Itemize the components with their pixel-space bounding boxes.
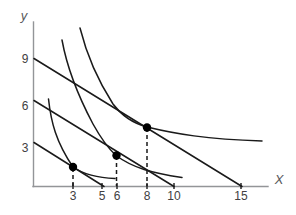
- indifference-curves-group: [49, 28, 263, 179]
- x-tick-label-3: 3: [70, 189, 77, 203]
- indifference-curve-chart: y X 9 6 3 3 5 6 8 10 15: [0, 0, 296, 215]
- y-axis-label: y: [20, 8, 29, 23]
- y-tick-label-6: 6: [22, 99, 29, 113]
- x-tick-labels-group: 3 5 6 8 10 15: [70, 189, 248, 203]
- chart-figure: y X 9 6 3 3 5 6 8 10 15: [0, 0, 296, 215]
- tangency-point-3: [143, 123, 151, 131]
- indifference-curve-3: [80, 28, 262, 141]
- y-tick-label-9: 9: [22, 52, 29, 66]
- x-tick-label-10: 10: [167, 189, 181, 203]
- x-tick-label-8: 8: [144, 189, 151, 203]
- budget-line-1: [34, 143, 104, 187]
- y-tick-labels-group: 9 6 3: [22, 52, 29, 155]
- x-tick-label-15: 15: [234, 189, 248, 203]
- budget-line-2: [34, 101, 174, 187]
- axes-group: [33, 22, 268, 187]
- x-axis-label: X: [274, 172, 285, 187]
- drop-lines-group: [73, 128, 147, 186]
- x-tick-label-5: 5: [99, 189, 106, 203]
- indifference-curve-1: [49, 99, 116, 179]
- indifference-curve-2: [62, 40, 182, 178]
- tangency-point-2: [112, 151, 120, 159]
- y-tick-label-3: 3: [22, 141, 29, 155]
- x-tick-label-6: 6: [114, 189, 121, 203]
- tangency-point-1: [69, 163, 77, 171]
